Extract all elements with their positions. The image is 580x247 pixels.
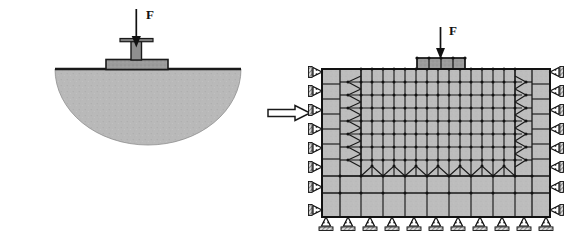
load-label-left: F	[146, 7, 154, 22]
footing-pad	[106, 60, 168, 70]
load-label-right: F	[449, 23, 457, 38]
footing-block-mesh	[415, 56, 466, 69]
foundation-discretization-figure: F	[0, 0, 580, 247]
